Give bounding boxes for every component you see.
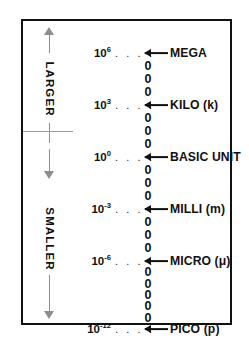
unit-label-basic-unit: BASIC UNIT [170, 150, 241, 164]
unit-prefix-name: PICO [170, 322, 200, 336]
exponent-base: 10 [87, 323, 100, 335]
exponent-power: 0 [107, 149, 111, 158]
unit-prefix-name: BASIC UNIT [170, 150, 241, 164]
exponent-label-0: 106 [53, 47, 111, 59]
diagram-frame: LARGER SMALLER 106. . . .MEGA000103. . .… [21, 19, 232, 325]
unit-symbol: (m) [202, 202, 225, 216]
exponent-label-2: 100 [53, 151, 111, 163]
zero-marker: 0 [141, 137, 155, 151]
pointer-arrow-icon-5 [145, 328, 168, 330]
zero-marker: 0 [141, 163, 155, 177]
zero-marker: 0 [141, 215, 155, 229]
exponent-power: 6 [107, 45, 111, 54]
exponent-power: -6 [104, 253, 111, 262]
exponent-label-4: 10-6 [53, 255, 111, 267]
unit-label-kilo: KILO (k) [170, 98, 218, 112]
pointer-arrow-icon-0 [145, 52, 168, 54]
unit-label-milli: MILLI (m) [170, 202, 225, 216]
unit-label-mega: MEGA [170, 46, 207, 60]
unit-label-pico: PICO (p) [170, 322, 220, 336]
unit-symbol: (μ) [211, 254, 230, 268]
zero-marker: 0 [141, 59, 155, 73]
exponent-base: 10 [94, 47, 107, 59]
pointer-arrow-icon-2 [145, 156, 168, 158]
exponent-power: -12 [100, 321, 111, 330]
zero-marker: 0 [141, 111, 155, 125]
unit-prefix-name: MICRO [170, 254, 211, 268]
unit-symbol: (p) [200, 322, 219, 336]
exponent-power: 3 [107, 97, 111, 106]
zero-marker: 0 [141, 85, 155, 99]
exponent-label-5: 10-12 [53, 323, 111, 335]
pointer-arrow-icon-4 [145, 260, 168, 262]
pointer-arrow-icon-1 [145, 104, 168, 106]
zero-marker: 0 [141, 124, 155, 138]
exponent-base: 10 [94, 151, 107, 163]
exponent-power: -3 [104, 201, 111, 210]
unit-prefix-name: MILLI [170, 202, 202, 216]
unit-label-micro: MICRO (μ) [170, 254, 231, 268]
pointer-arrow-icon-3 [145, 208, 168, 210]
exponent-label-3: 10-3 [53, 203, 111, 215]
scale-spine: 106. . . .MEGA000103. . . .KILO (k)00010… [23, 21, 230, 323]
unit-symbol: (k) [200, 98, 219, 112]
unit-prefix-name: KILO [170, 98, 200, 112]
exponent-base: 10 [94, 99, 107, 111]
zero-marker: 0 [141, 189, 155, 203]
unit-prefix-name: MEGA [170, 46, 207, 60]
exponent-base: 10 [91, 203, 104, 215]
zero-marker: 0 [141, 228, 155, 242]
exponent-base: 10 [91, 255, 104, 267]
exponent-label-1: 103 [53, 99, 111, 111]
zero-marker: 0 [141, 176, 155, 190]
zero-marker: 0 [141, 72, 155, 86]
zero-marker: 0 [141, 241, 155, 255]
